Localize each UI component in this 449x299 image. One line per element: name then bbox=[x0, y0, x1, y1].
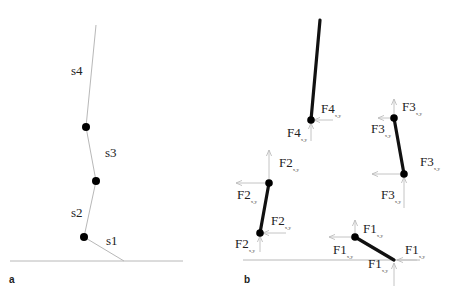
joint-1-top bbox=[351, 233, 359, 241]
force-label-f1-bot-y: F1x,y bbox=[368, 256, 388, 274]
segment-2 bbox=[260, 183, 269, 233]
segment-4-freebody: F4x,y F4x,y bbox=[287, 20, 341, 143]
force-label-f3-bot-x: F3x,y bbox=[420, 154, 440, 172]
force-label-f2-top-x: F2x,y bbox=[237, 187, 257, 205]
force-label-f4-y: F4x,y bbox=[287, 125, 307, 143]
panel-label-b: b bbox=[244, 274, 250, 285]
force-label-f3-bot-y: F3x,y bbox=[381, 187, 401, 205]
segment-label-s4: s4 bbox=[71, 63, 83, 78]
joint-4 bbox=[307, 116, 315, 124]
force-label-f2-bot-x: F2x,y bbox=[271, 213, 291, 231]
joint-2-top bbox=[265, 179, 273, 187]
joint-s2-s3 bbox=[92, 177, 100, 185]
joint-s1-s2 bbox=[80, 233, 88, 241]
segment-1-freebody: F1x,y F1x,y F1x,y F1x,y bbox=[329, 220, 425, 286]
joint-3-bottom bbox=[400, 170, 408, 178]
segment-3-freebody: F3x,y F3x,y F3x,y F3x,y bbox=[371, 99, 440, 208]
force-label-f3-top-y: F3x,y bbox=[402, 99, 422, 117]
segment-2-freebody: F2x,y F2x,y F2x,y F2x,y bbox=[235, 150, 299, 254]
force-label-f4-x: F4x,y bbox=[321, 101, 341, 119]
panel-label-a: a bbox=[9, 274, 15, 285]
force-label-f2-bot-y: F2x,y bbox=[235, 236, 255, 254]
panel-b: F4x,y F4x,y F3x,y F3x,y F3x,y F3x,y bbox=[235, 20, 440, 286]
segment-4 bbox=[311, 20, 320, 120]
figure-canvas: s4 s3 s2 s1 a F4x,y F4x,y F3x,y F3x,y bbox=[0, 0, 449, 299]
segment-label-s3: s3 bbox=[105, 145, 117, 160]
joint-s3-s4 bbox=[82, 123, 90, 131]
joint-3-top bbox=[390, 114, 398, 122]
leg-chain-a bbox=[84, 25, 124, 261]
segment-label-s2: s2 bbox=[71, 205, 83, 220]
force-label-f3-top-x: F3x,y bbox=[371, 121, 391, 139]
force-label-f1-top-y: F1x,y bbox=[363, 221, 383, 239]
segment-3 bbox=[394, 118, 404, 174]
force-label-f1-bot-x: F1x,y bbox=[405, 242, 425, 260]
panel-a: s4 s3 s2 s1 a bbox=[9, 25, 183, 285]
force-label-f1-top-x: F1x,y bbox=[333, 242, 353, 260]
force-label-f2-top-y: F2x,y bbox=[279, 155, 299, 173]
segment-label-s1: s1 bbox=[106, 233, 118, 248]
joint-2-bottom bbox=[256, 229, 264, 237]
